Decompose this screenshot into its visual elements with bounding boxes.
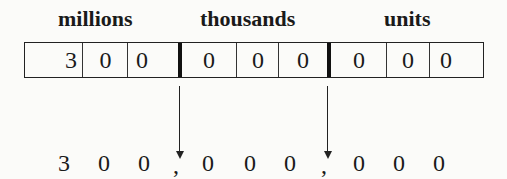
arrow-line-2 [327,86,328,152]
cell-thousands-hundreds: 0 [182,43,236,77]
label-units: units [384,6,430,32]
digit: 0 [202,150,214,176]
label-millions: millions [58,6,133,32]
digit: 0 [393,150,405,176]
label-thousands: thousands [200,6,295,32]
comma-separator: , [173,152,179,178]
digit: 0 [433,150,445,176]
cell-thousands-tens: 0 [237,43,279,77]
cell-millions-tens: 0 [83,43,128,77]
digit: 3 [58,150,70,176]
cell-units-tens: 0 [387,43,429,77]
digit: 0 [353,150,365,176]
arrow-line-1 [179,86,180,152]
comma-separator: , [321,152,327,178]
digit: 0 [98,150,110,176]
cell-units-hundreds: 0 [331,43,387,77]
cell-millions-units: 0 [128,43,178,77]
place-value-table: 3 0 0 0 0 0 0 0 0 [24,42,484,78]
cell-millions-hundreds: 3 [25,43,83,77]
cell-thousands-units: 0 [279,43,327,77]
digit: 0 [244,150,256,176]
digit: 0 [284,150,296,176]
cell-units-units: 0 [430,43,480,77]
digit: 0 [138,150,150,176]
